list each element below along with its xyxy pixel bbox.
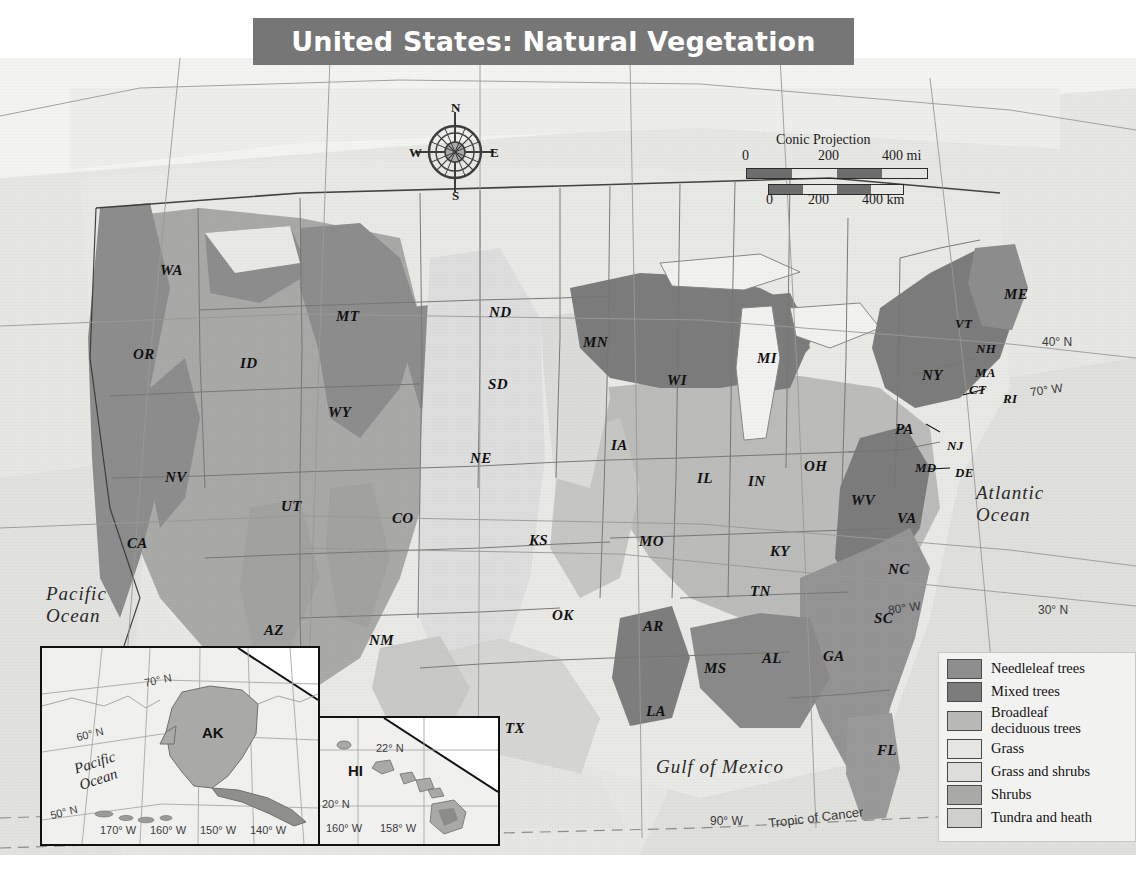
graticule-label-40n: 40° N xyxy=(1042,335,1072,349)
legend-item[interactable]: Mixed trees xyxy=(947,682,1129,702)
state-label-nv: NV xyxy=(165,469,186,486)
state-label-tn: TN xyxy=(750,583,771,600)
hawaii-graticule-20n: 20° N xyxy=(322,798,350,810)
state-label-wv: WV xyxy=(851,492,875,509)
legend-item[interactable]: Broadleaf deciduous trees xyxy=(947,705,1129,736)
state-label-ny: NY xyxy=(922,367,943,384)
legend-label-needleleaf-trees: Needleleaf trees xyxy=(991,661,1085,677)
state-label-ri: RI xyxy=(1003,391,1017,407)
alaska-graticule-150w: 150° W xyxy=(200,824,236,836)
legend-label-mixed-trees: Mixed trees xyxy=(991,684,1060,700)
map-page: Pacific Ocean Atlantic Ocean Gulf of Mex… xyxy=(0,0,1136,878)
state-label-ca: CA xyxy=(127,535,148,552)
state-label-nj: NJ xyxy=(947,438,964,454)
state-label-nm: NM xyxy=(369,632,394,649)
alaska-graticule-160w: 160° W xyxy=(150,824,186,836)
ocean-label-gulf-of-mexico: Gulf of Mexico xyxy=(656,756,784,778)
legend-item[interactable]: Shrubs xyxy=(947,785,1129,805)
state-label-mo: MO xyxy=(639,533,664,550)
state-label-az: AZ xyxy=(264,622,284,639)
state-label-mn: MN xyxy=(583,334,608,351)
graticule-label-90w: 90° W xyxy=(710,814,743,828)
compass-label-south: S xyxy=(452,188,459,204)
state-label-id: ID xyxy=(240,355,257,372)
state-label-ne: NE xyxy=(470,450,491,467)
state-label-ms: MS xyxy=(704,660,726,677)
state-label-oh: OH xyxy=(804,458,827,475)
compass-rose: N E S W xyxy=(408,100,502,204)
hawaii-inset[interactable]: HI 22° N 20° N 160° W 158° W xyxy=(318,716,500,846)
legend-swatch-shrubs xyxy=(947,785,982,805)
state-label-ky: KY xyxy=(770,543,790,560)
legend-swatch-grass-and-shrubs xyxy=(947,762,982,782)
legend-label-broadleaf-deciduous-trees: Broadleaf deciduous trees xyxy=(991,705,1081,736)
legend-swatch-grass xyxy=(947,739,982,759)
legend-label-shrubs: Shrubs xyxy=(991,787,1031,803)
state-label-sd: SD xyxy=(488,376,508,393)
map-legend[interactable]: Needleleaf trees Mixed trees Broadleaf d… xyxy=(938,652,1136,842)
scale-bar-miles xyxy=(746,168,928,179)
state-label-wy: WY xyxy=(328,404,351,421)
state-label-il: IL xyxy=(697,470,713,487)
map-title-bar: United States: Natural Vegetation xyxy=(253,18,854,65)
state-label-la: LA xyxy=(646,703,666,720)
compass-label-west: W xyxy=(409,145,422,161)
legend-swatch-broadleaf-deciduous-trees xyxy=(947,711,982,731)
state-label-nd: ND xyxy=(489,304,511,321)
state-label-in: IN xyxy=(748,473,765,490)
hawaii-graticule-160w: 160° W xyxy=(326,822,362,834)
alaska-graticule-170w: 170° W xyxy=(100,824,136,836)
state-label-ct: CT xyxy=(969,382,986,398)
state-label-md: MD xyxy=(915,460,937,476)
legend-label-grass: Grass xyxy=(991,741,1024,757)
scale-bar: Conic Projection 0 200 400 mi 0 200 400 … xyxy=(742,132,932,212)
hawaii-label: HI xyxy=(348,762,363,779)
legend-label-tundra-and-heath: Tundra and heath xyxy=(991,810,1092,826)
graticule-label-30n: 30° N xyxy=(1038,603,1068,617)
state-label-ia: IA xyxy=(611,437,627,454)
state-label-me: ME xyxy=(1004,286,1028,303)
state-label-mi: MI xyxy=(757,350,777,367)
state-label-ma: MA xyxy=(975,365,996,381)
state-label-ut: UT xyxy=(281,498,302,515)
legend-swatch-needleleaf-trees xyxy=(947,659,982,679)
state-label-nh: NH xyxy=(976,341,996,357)
legend-item[interactable]: Grass and shrubs xyxy=(947,762,1129,782)
state-label-fl: FL xyxy=(877,742,897,759)
state-label-vt: VT xyxy=(955,316,972,332)
legend-item[interactable]: Grass xyxy=(947,739,1129,759)
state-label-de: DE xyxy=(955,465,974,481)
state-label-al: AL xyxy=(762,650,782,667)
ocean-label-pacific: Pacific Ocean xyxy=(46,583,107,627)
legend-swatch-mixed-trees xyxy=(947,682,982,702)
legend-label-grass-and-shrubs: Grass and shrubs xyxy=(991,764,1090,780)
alaska-inset[interactable]: AK Pacific Ocean 70° N 60° N 50° N 170° … xyxy=(40,646,320,846)
state-label-ok: OK xyxy=(552,607,573,624)
state-label-ks: KS xyxy=(529,532,548,549)
hawaii-graticule-22n: 22° N xyxy=(376,742,404,754)
hawaii-graticule-158w: 158° W xyxy=(380,822,416,834)
state-label-pa: PA xyxy=(895,421,914,438)
state-label-co: CO xyxy=(392,510,413,527)
state-label-ga: GA xyxy=(823,648,844,665)
legend-item[interactable]: Needleleaf trees xyxy=(947,659,1129,679)
projection-label: Conic Projection xyxy=(776,132,871,148)
state-label-va: VA xyxy=(897,510,917,527)
legend-item[interactable]: Tundra and heath xyxy=(947,808,1129,828)
compass-label-east: E xyxy=(490,145,499,161)
compass-label-north: N xyxy=(451,100,460,116)
alaska-graticule-140w: 140° W xyxy=(250,824,286,836)
state-label-wi: WI xyxy=(667,372,687,389)
page-title: United States: Natural Vegetation xyxy=(291,26,816,57)
ocean-label-atlantic: Atlantic Ocean xyxy=(976,482,1044,526)
state-label-or: OR xyxy=(133,346,154,363)
state-label-tx: TX xyxy=(505,720,525,737)
state-label-nc: NC xyxy=(888,561,909,578)
alaska-label: AK xyxy=(202,724,224,741)
state-label-wa: WA xyxy=(160,262,183,279)
state-label-sc: SC xyxy=(874,610,893,627)
legend-swatch-tundra-and-heath xyxy=(947,808,982,828)
state-label-ar: AR xyxy=(643,618,664,635)
state-label-mt: MT xyxy=(336,308,359,325)
alaska-inset-vector xyxy=(42,648,318,844)
